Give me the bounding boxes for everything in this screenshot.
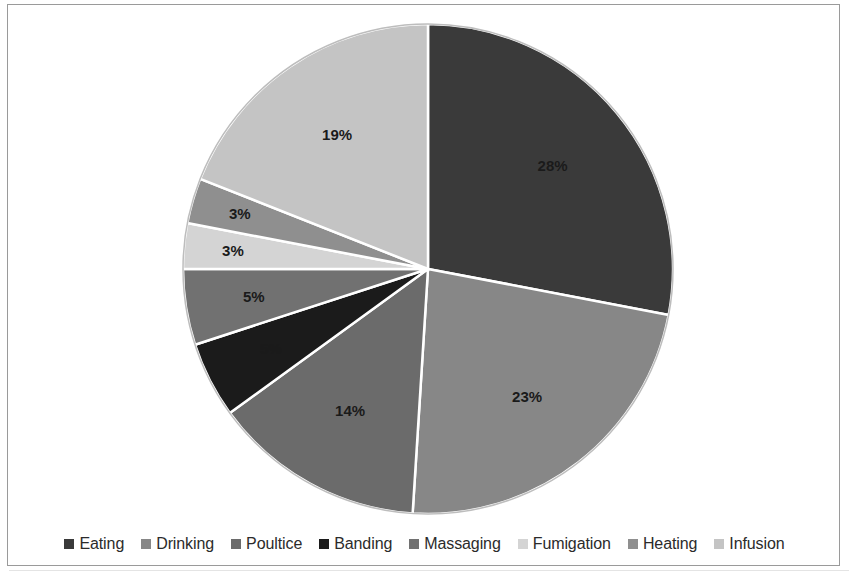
- legend-item[interactable]: Eating: [64, 535, 124, 553]
- legend-item[interactable]: Drinking: [141, 535, 214, 553]
- pie-data-label: 28%: [538, 157, 568, 174]
- legend-item[interactable]: Infusion: [714, 535, 784, 553]
- pie-data-label: 5%: [243, 288, 265, 305]
- page-rule: [9, 570, 849, 571]
- legend-swatch-icon: [141, 539, 151, 549]
- pie-data-label: 19%: [322, 126, 352, 143]
- pie-slice-group: [183, 24, 673, 514]
- chart-legend: EatingDrinkingPoulticeBandingMassagingFu…: [8, 529, 841, 559]
- legend-label: Infusion: [729, 535, 784, 553]
- legend-label: Drinking: [156, 535, 214, 553]
- legend-item[interactable]: Heating: [628, 535, 697, 553]
- chart-frame: 28%23%14%5%5%3%3%19% EatingDrinkingPoult…: [7, 4, 840, 566]
- legend-swatch-icon: [409, 539, 419, 549]
- pie-chart-svg: 28%23%14%5%5%3%3%19%: [8, 5, 841, 515]
- legend-swatch-icon: [628, 539, 638, 549]
- pie-data-label: 5%: [260, 340, 282, 357]
- legend-label: Banding: [334, 535, 392, 553]
- legend-item[interactable]: Banding: [319, 535, 392, 553]
- legend-swatch-icon: [714, 539, 724, 549]
- legend-label: Eating: [79, 535, 124, 553]
- pie-chart-plot-area: 28%23%14%5%5%3%3%19%: [8, 5, 841, 515]
- pie-data-label: 23%: [512, 388, 542, 405]
- legend-swatch-icon: [319, 539, 329, 549]
- legend-item[interactable]: Massaging: [409, 535, 500, 553]
- legend-item[interactable]: Fumigation: [518, 535, 611, 553]
- legend-swatch-icon: [231, 539, 241, 549]
- pie-data-label: 14%: [335, 402, 365, 419]
- legend-label: Fumigation: [533, 535, 611, 553]
- legend-label: Massaging: [424, 535, 500, 553]
- legend-swatch-icon: [64, 539, 74, 549]
- pie-data-label: 3%: [222, 242, 244, 259]
- legend-item[interactable]: Poultice: [231, 535, 302, 553]
- legend-label: Heating: [643, 535, 697, 553]
- legend-swatch-icon: [518, 539, 528, 549]
- pie-data-label: 3%: [229, 205, 251, 222]
- legend-label: Poultice: [246, 535, 302, 553]
